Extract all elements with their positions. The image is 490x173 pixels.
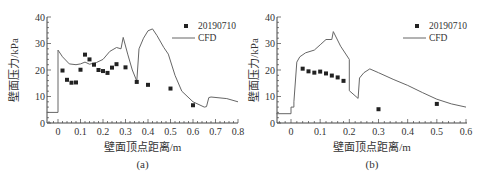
- data-point: [435, 102, 439, 106]
- data-point: [106, 71, 110, 75]
- data-point: [101, 69, 105, 73]
- x-tick-label: 0: [289, 126, 294, 137]
- y-tick-label: 10: [265, 91, 275, 102]
- y-tick-label: 30: [265, 38, 275, 49]
- data-point: [307, 69, 311, 73]
- data-point: [70, 81, 74, 85]
- x-tick-label: 0.7: [209, 126, 222, 137]
- x-tick-label: 0.6: [460, 126, 473, 137]
- x-tick-label: 0.1: [314, 126, 327, 137]
- data-point: [92, 63, 96, 67]
- legend-label-scatter: 20190710: [429, 21, 467, 31]
- data-point: [61, 69, 65, 73]
- y-axis-label: 壁面压力/kPa: [7, 38, 20, 102]
- figure: 01020304000.10.20.30.40.50.60.70.8201907…: [0, 0, 490, 173]
- x-tick-label: 0.3: [372, 126, 385, 137]
- x-axis-label: 壁面顶点距离/m: [333, 140, 411, 153]
- legend-marker-icon: [415, 24, 419, 28]
- x-tick-label: 0.2: [97, 126, 110, 137]
- data-point: [342, 79, 346, 83]
- y-tick-label: 40: [265, 12, 275, 23]
- data-point: [191, 103, 195, 107]
- data-point: [115, 62, 119, 66]
- data-point: [110, 66, 114, 70]
- data-point: [318, 70, 322, 74]
- x-tick-label: 0.1: [74, 126, 87, 137]
- legend-label-line: CFD: [429, 33, 448, 43]
- x-tick-label: 0.3: [119, 126, 132, 137]
- cfd-line: [276, 32, 466, 114]
- y-tick-label: 20: [265, 65, 275, 76]
- data-point: [79, 68, 83, 72]
- chart-panel-a: 01020304000.10.20.30.40.50.60.70.8201907…: [7, 12, 244, 172]
- chart-panel-b: 01020304000.10.20.30.40.50.620190710CFD壁…: [247, 12, 472, 172]
- data-point: [330, 74, 334, 78]
- legend-marker-icon: [184, 24, 188, 28]
- data-point: [135, 80, 139, 84]
- data-point: [83, 53, 87, 57]
- data-point: [146, 83, 150, 87]
- y-tick-label: 40: [35, 12, 45, 23]
- x-axis-label: 壁面顶点距离/m: [104, 140, 182, 153]
- y-tick-label: 10: [35, 91, 45, 102]
- data-point: [169, 87, 173, 91]
- data-point: [124, 65, 128, 69]
- data-point: [301, 67, 305, 71]
- data-point: [74, 80, 78, 84]
- x-tick-label: 0.8: [232, 126, 245, 137]
- panel-label: (b): [366, 158, 379, 171]
- y-tick-label: 0: [270, 118, 275, 129]
- y-tick-label: 0: [40, 118, 45, 129]
- x-tick-label: 0.4: [401, 126, 414, 137]
- data-point: [324, 71, 328, 75]
- data-point: [336, 75, 340, 79]
- data-point: [65, 78, 69, 82]
- panel-label: (a): [136, 158, 149, 171]
- x-tick-label: 0.2: [343, 126, 356, 137]
- y-tick-label: 20: [35, 65, 45, 76]
- data-point: [97, 68, 101, 72]
- x-tick-label: 0.6: [187, 126, 200, 137]
- data-point: [312, 71, 316, 75]
- x-tick-label: 0.4: [142, 126, 155, 137]
- x-tick-label: 0.5: [431, 126, 444, 137]
- x-tick-label: 0.5: [164, 126, 177, 137]
- data-point: [88, 57, 92, 61]
- y-tick-label: 30: [35, 38, 45, 49]
- data-point: [377, 107, 381, 111]
- x-tick-label: 0: [56, 126, 61, 137]
- legend-label-line: CFD: [198, 33, 217, 43]
- y-axis-label: 壁面压力/kPa: [247, 38, 260, 102]
- chart-canvas: 01020304000.10.20.30.40.50.60.70.8201907…: [0, 0, 490, 173]
- legend-label-scatter: 20190710: [198, 21, 236, 31]
